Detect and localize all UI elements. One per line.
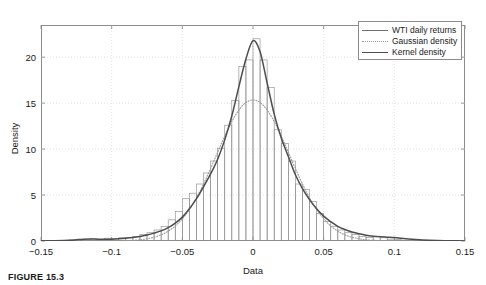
- legend-item-gaussian: Gaussian density: [362, 35, 457, 46]
- legend-swatch-line-icon: [362, 25, 388, 35]
- legend-label-gaussian: Gaussian density: [392, 36, 457, 46]
- legend-swatch-dotted-icon: [362, 36, 388, 46]
- y-tick-label: 0: [12, 236, 36, 247]
- y-tick-label: 5: [12, 190, 36, 201]
- histogram-bars-group: [69, 39, 401, 241]
- x-tick-label: 0: [250, 246, 255, 257]
- x-tick-label: 0.1: [388, 246, 401, 257]
- figure-container: −0.15−0.1−0.0500.050.10.15 05101520 Data…: [0, 0, 486, 285]
- x-tick-label: −0.1: [102, 246, 121, 257]
- figure-caption: FIGURE 15.3: [8, 272, 64, 285]
- y-tick-label: 15: [12, 98, 36, 109]
- y-axis-title: Density: [9, 109, 20, 169]
- legend-label-wti: WTI daily returns: [392, 25, 456, 35]
- chart-legend: WTI daily returns Gaussian density Kerne…: [358, 21, 462, 60]
- x-axis-title: Data: [243, 265, 263, 276]
- x-tick-label: 0.15: [456, 246, 475, 257]
- legend-item-wti: WTI daily returns: [362, 24, 457, 35]
- legend-item-kernel: Kernel density: [362, 46, 457, 57]
- x-tick-label: −0.15: [29, 246, 53, 257]
- y-tick-label: 20: [12, 52, 36, 63]
- legend-label-kernel: Kernel density: [392, 47, 446, 57]
- legend-swatch-thick-icon: [362, 47, 388, 57]
- x-tick-label: 0.05: [314, 246, 333, 257]
- x-tick-label: −0.05: [170, 246, 194, 257]
